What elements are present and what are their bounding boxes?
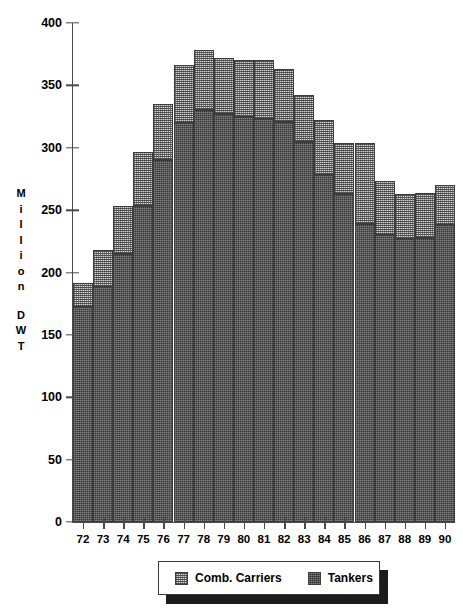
bar-89 bbox=[415, 193, 435, 522]
x-axis-tick-mark bbox=[244, 518, 245, 529]
bar-segment-comb-carriers bbox=[174, 65, 194, 122]
bar-76 bbox=[153, 104, 173, 522]
x-axis-tick-mark bbox=[83, 518, 84, 529]
bar-72 bbox=[73, 282, 93, 522]
bar-segment-comb-carriers bbox=[254, 60, 274, 119]
y-axis-tick-label: 300 bbox=[41, 141, 62, 155]
x-axis-tick-mark bbox=[365, 518, 366, 529]
x-axis-tick-label: 84 bbox=[314, 533, 334, 545]
stacked-bar-chart: M i l l i o n D W T 40035030025020015010… bbox=[0, 0, 463, 614]
x-axis-tick-mark bbox=[143, 518, 144, 529]
bar-segment-comb-carriers bbox=[375, 181, 395, 235]
x-axis-tick-label: 79 bbox=[214, 533, 234, 545]
bar-segment-comb-carriers bbox=[415, 193, 435, 238]
bar-90 bbox=[435, 185, 455, 522]
x-axis-tick-label: 74 bbox=[113, 533, 133, 545]
x-axis-tick-mark bbox=[284, 518, 285, 529]
bar-segment-tankers bbox=[395, 239, 415, 522]
y-axis-title-letter: D bbox=[17, 308, 25, 324]
chart-legend: Comb. Carriers Tankers bbox=[158, 561, 380, 595]
y-axis-title-letter: M bbox=[16, 186, 25, 202]
y-axis-title-letter: n bbox=[18, 279, 25, 295]
x-axis-tick-label: 89 bbox=[415, 533, 435, 545]
bar-segment-comb-carriers bbox=[214, 58, 234, 114]
y-axis-tick-label: 200 bbox=[41, 266, 62, 280]
x-axis-tick-mark bbox=[103, 518, 104, 529]
bar-82 bbox=[274, 69, 294, 522]
y-axis-tick-label: 350 bbox=[41, 78, 62, 92]
bar-segment-comb-carriers bbox=[73, 283, 93, 308]
bar-segment-tankers bbox=[334, 194, 354, 522]
bar-segment-tankers bbox=[214, 114, 234, 522]
bar-segment-tankers bbox=[375, 235, 395, 522]
bar-segment-comb-carriers bbox=[435, 185, 455, 225]
legend-label: Comb. Carriers bbox=[195, 571, 282, 585]
x-axis-tick-label: 73 bbox=[93, 533, 113, 545]
bar-segment-comb-carriers bbox=[314, 120, 334, 175]
x-axis-tick-mark bbox=[324, 518, 325, 529]
bar-segment-tankers bbox=[435, 225, 455, 522]
bar-segment-tankers bbox=[254, 119, 274, 522]
bar-segment-comb-carriers bbox=[194, 50, 214, 110]
x-axis-tick-label: 85 bbox=[334, 533, 354, 545]
bar-segment-comb-carriers bbox=[274, 69, 294, 121]
x-axis-tick-mark bbox=[344, 518, 345, 529]
legend-label: Tankers bbox=[328, 571, 373, 585]
y-axis-tick-label: 50 bbox=[48, 453, 62, 467]
y-axis-title-letter: o bbox=[18, 264, 25, 280]
x-axis-tick-label: 75 bbox=[133, 533, 153, 545]
x-axis-tick-labels: 72737475767778798081828384858687888990 bbox=[73, 533, 455, 551]
bar-segment-tankers bbox=[174, 123, 194, 522]
bar-segment-tankers bbox=[133, 206, 153, 522]
bar-86 bbox=[355, 143, 375, 522]
x-axis-tick-label: 80 bbox=[234, 533, 254, 545]
x-axis-tick-label: 88 bbox=[395, 533, 415, 545]
bar-80 bbox=[234, 60, 254, 522]
x-axis-tick-label: 78 bbox=[194, 533, 214, 545]
bar-segment-comb-carriers bbox=[395, 194, 415, 239]
y-axis-title-letter: T bbox=[18, 339, 25, 355]
x-axis-tick-mark bbox=[224, 518, 225, 529]
bar-segment-tankers bbox=[274, 122, 294, 522]
bar-segment-tankers bbox=[194, 110, 214, 522]
bar-84 bbox=[314, 120, 334, 522]
x-axis-tick-mark bbox=[304, 518, 305, 529]
x-axis-tick-mark bbox=[184, 518, 185, 529]
bar-segment-comb-carriers bbox=[334, 143, 354, 194]
bar-segment-tankers bbox=[415, 238, 435, 522]
x-axis-tick-label: 86 bbox=[355, 533, 375, 545]
x-axis-tick-label: 83 bbox=[294, 533, 314, 545]
y-axis-tick-label: 100 bbox=[41, 390, 62, 404]
x-axis-tick-mark bbox=[123, 518, 124, 529]
bar-73 bbox=[93, 250, 113, 522]
bar-75 bbox=[133, 152, 153, 523]
x-axis-tick-label: 90 bbox=[435, 533, 455, 545]
bar-segment-comb-carriers bbox=[113, 206, 133, 253]
y-axis-tick-label: 150 bbox=[41, 328, 62, 342]
bar-segment-comb-carriers bbox=[234, 60, 254, 116]
bar-83 bbox=[294, 95, 314, 522]
x-axis-tick-mark bbox=[204, 518, 205, 529]
x-axis-tick-label: 81 bbox=[254, 533, 274, 545]
plot-area bbox=[73, 23, 455, 522]
bar-88 bbox=[395, 194, 415, 522]
x-axis-tick-label: 72 bbox=[73, 533, 93, 545]
x-axis-tick-mark bbox=[445, 518, 446, 529]
bar-segment-comb-carriers bbox=[153, 104, 173, 160]
bar-87 bbox=[375, 181, 395, 522]
bar-segment-tankers bbox=[153, 160, 173, 522]
x-axis-tick-mark bbox=[405, 518, 406, 529]
bar-segment-comb-carriers bbox=[133, 152, 153, 207]
y-axis-title-letter: l bbox=[19, 217, 22, 233]
y-axis-title-letter: W bbox=[16, 323, 26, 339]
y-axis-title-letter: i bbox=[19, 202, 22, 218]
x-axis-tick-mark bbox=[385, 518, 386, 529]
x-axis-tick-label: 76 bbox=[153, 533, 173, 545]
x-axis-tick-mark bbox=[264, 518, 265, 529]
tankers-swatch-icon bbox=[308, 572, 321, 585]
bar-segment-tankers bbox=[234, 117, 254, 522]
bar-segment-tankers bbox=[93, 287, 113, 522]
legend-item-tankers: Tankers bbox=[308, 571, 373, 585]
x-axis-tick-mark bbox=[425, 518, 426, 529]
bar-segment-tankers bbox=[355, 224, 375, 522]
